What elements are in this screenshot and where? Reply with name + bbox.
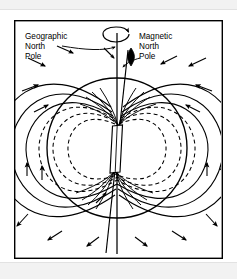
magnetic-label-line1: Magnetic: [139, 32, 172, 41]
bar-magnet: [110, 125, 123, 173]
geographic-label-line2: North: [25, 42, 45, 51]
geographic-label-line3: Pole: [25, 52, 42, 61]
geographic-label-line1: Geographic: [25, 32, 67, 41]
magnetic-label-line2: North: [139, 42, 159, 51]
magnetic-label-line3: Pole: [139, 52, 156, 61]
